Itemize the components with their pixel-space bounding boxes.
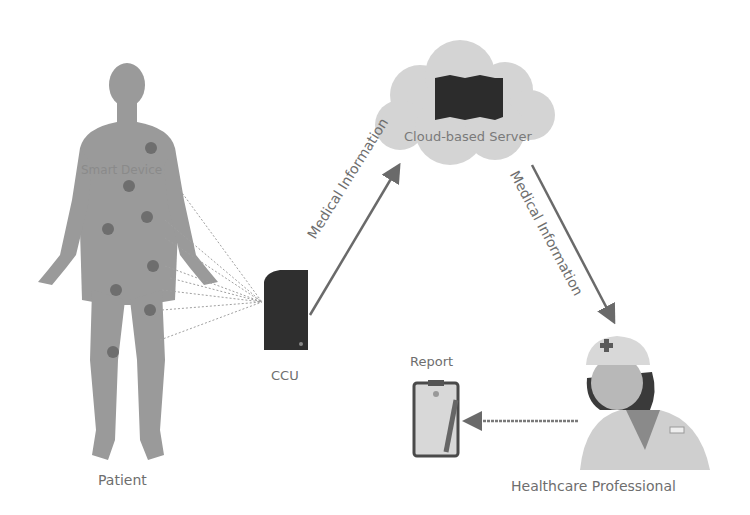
diagram-canvas [0, 0, 750, 515]
arrow-ccu-to-cloud [310, 167, 398, 315]
healthcare-professional-label: Healthcare Professional [511, 478, 676, 494]
report-label: Report [410, 354, 453, 369]
cloud-server-label: Cloud-based Server [404, 129, 532, 144]
ccu-device-icon [264, 270, 308, 350]
server-rack-icon [435, 75, 503, 120]
patient-label: Patient [98, 472, 147, 488]
healthcare-professional-icon [580, 336, 710, 470]
ccu-label: CCU [271, 368, 299, 383]
patient-figure [38, 63, 218, 460]
report-clipboard-icon [414, 380, 458, 456]
smart-device-label: Smart Device [81, 163, 162, 177]
